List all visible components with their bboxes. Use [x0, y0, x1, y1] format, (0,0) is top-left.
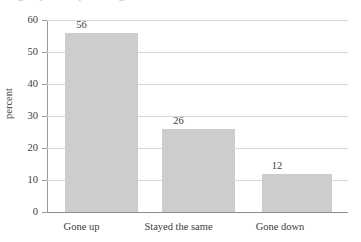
y-tick-label-30: 30 — [12, 111, 38, 121]
bar-value-label-gone-down: 12 — [242, 160, 312, 171]
x-axis-line — [47, 212, 348, 213]
x-category-label-stayed-the-same: Stayed the same — [132, 221, 225, 233]
y-tick-label-0: 0 — [12, 207, 38, 217]
bar-gone-down[interactable] — [262, 174, 332, 212]
y-tick-label-20: 20 — [12, 143, 38, 153]
y-tick-mark-30 — [42, 116, 47, 117]
y-tick-label-60: 60 — [12, 15, 38, 25]
bar-stayed-the-same[interactable] — [162, 129, 235, 212]
y-tick-label-40: 40 — [12, 79, 38, 89]
y-tick-mark-20 — [42, 148, 47, 149]
bar-chart-figure: percent 60 50 40 30 20 10 0 56 — [0, 0, 361, 242]
y-tick-mark-0 — [42, 212, 47, 213]
y-tick-mark-50 — [42, 52, 47, 53]
y-tick-label-10: 10 — [12, 175, 38, 185]
bar-value-label-stayed-the-same: 26 — [142, 115, 215, 126]
bar-value-label-gone-up: 56 — [45, 19, 118, 30]
y-tick-mark-10 — [42, 180, 47, 181]
bar-gone-up[interactable] — [65, 33, 138, 212]
y-tick-mark-40 — [42, 84, 47, 85]
y-axis-title: percent — [3, 64, 14, 144]
y-tick-label-50: 50 — [12, 47, 38, 57]
x-category-label-gone-up: Gone up — [35, 221, 128, 233]
x-category-label-gone-down: Gone down — [235, 221, 325, 233]
